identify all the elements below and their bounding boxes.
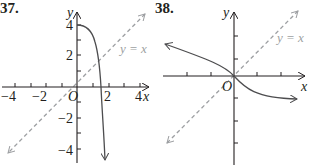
svg-text:O: O	[68, 89, 78, 104]
svg-text:O: O	[222, 79, 232, 94]
svg-text:y: y	[221, 5, 230, 20]
svg-text:−2: −2	[32, 89, 47, 104]
svg-text:4: 4	[66, 18, 73, 33]
svg-text:2: 2	[104, 89, 111, 104]
identity-line-label: y = x	[118, 41, 147, 56]
svg-text:−2: −2	[58, 111, 73, 126]
graph-38-plot: y O x y = x	[155, 0, 311, 167]
identity-line-label: y = x	[275, 30, 304, 45]
svg-text:x: x	[142, 89, 150, 104]
function-curve	[77, 25, 105, 160]
graph-38: 38. y O	[155, 0, 311, 167]
svg-text:x: x	[300, 79, 308, 94]
svg-text:−4: −4	[58, 143, 73, 158]
svg-text:2: 2	[66, 48, 73, 63]
svg-text:4: 4	[135, 89, 142, 104]
graph-37-plot: y 4 2 −2 −4 −4 −2 2 4 O x y = x	[0, 0, 155, 167]
svg-text:−4: −4	[1, 89, 16, 104]
graph-37: 37.	[0, 0, 155, 167]
function-curve	[165, 44, 234, 76]
